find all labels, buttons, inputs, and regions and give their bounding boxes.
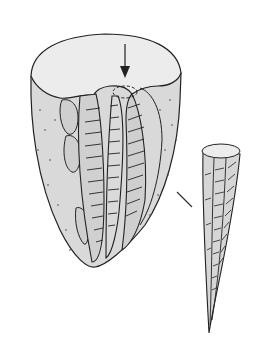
small-spike-specimen [202, 144, 240, 333]
illustration-canvas [0, 0, 255, 340]
large-cone-specimen [31, 34, 181, 267]
connector-line [177, 192, 192, 207]
